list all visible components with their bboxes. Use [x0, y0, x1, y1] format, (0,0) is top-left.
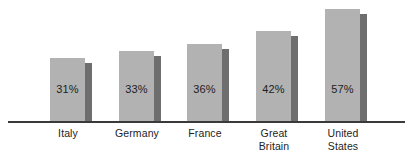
bar-face-great-britain	[256, 31, 291, 123]
category-label-united-states-line2: States	[308, 140, 378, 153]
bar-italy[interactable]: 31%	[50, 58, 92, 123]
bar-united-states[interactable]: 57%	[325, 9, 367, 123]
bar-value-great-britain: 42%	[256, 84, 291, 95]
bar-great-britain[interactable]: 42%	[256, 31, 298, 123]
category-label-germany-line1: Germany	[102, 127, 172, 140]
bar-side-great-britain	[291, 36, 298, 123]
category-label-france: France	[170, 127, 240, 140]
category-label-italy-line1: Italy	[33, 127, 103, 140]
bar-germany[interactable]: 33%	[119, 51, 161, 123]
baseline-axis	[8, 121, 405, 123]
bar-side-italy	[85, 63, 92, 123]
category-label-great-britain: Great Britain	[239, 127, 309, 153]
bar-side-germany	[154, 56, 161, 123]
bar-side-united-states	[360, 14, 367, 123]
category-axis: Italy Germany France Great Britain Unite…	[0, 127, 417, 160]
category-label-great-britain-line1: Great	[239, 127, 309, 140]
bar-chart: 31% 33% 36% 42% 57% Italy Germ	[0, 0, 417, 160]
category-label-united-states: United States	[308, 127, 378, 153]
bar-side-france	[222, 49, 229, 123]
category-label-france-line1: France	[170, 127, 240, 140]
plot-area: 31% 33% 36% 42% 57%	[0, 0, 417, 123]
bar-value-united-states: 57%	[325, 84, 360, 95]
bar-face-united-states	[325, 9, 360, 123]
bar-france[interactable]: 36%	[187, 44, 229, 123]
bar-value-france: 36%	[187, 84, 222, 95]
bar-value-italy: 31%	[50, 84, 85, 95]
category-label-germany: Germany	[102, 127, 172, 140]
category-label-italy: Italy	[33, 127, 103, 140]
category-label-united-states-line1: United	[308, 127, 378, 140]
category-label-great-britain-line2: Britain	[239, 140, 309, 153]
bar-value-germany: 33%	[119, 84, 154, 95]
